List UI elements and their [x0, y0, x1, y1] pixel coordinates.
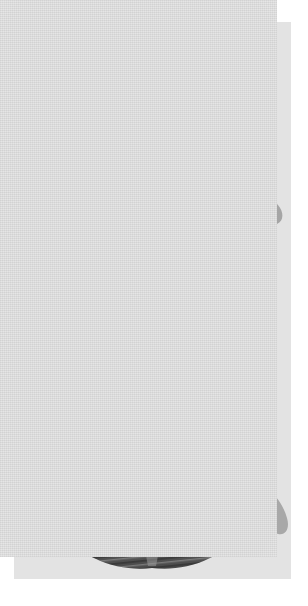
figure-lower [14, 300, 291, 579]
figure-upper [14, 22, 291, 292]
cricoid-midline-notch [145, 512, 160, 566]
anatomical-plate [0, 0, 308, 606]
arytenoid-muscle-block-highlight [145, 374, 160, 378]
